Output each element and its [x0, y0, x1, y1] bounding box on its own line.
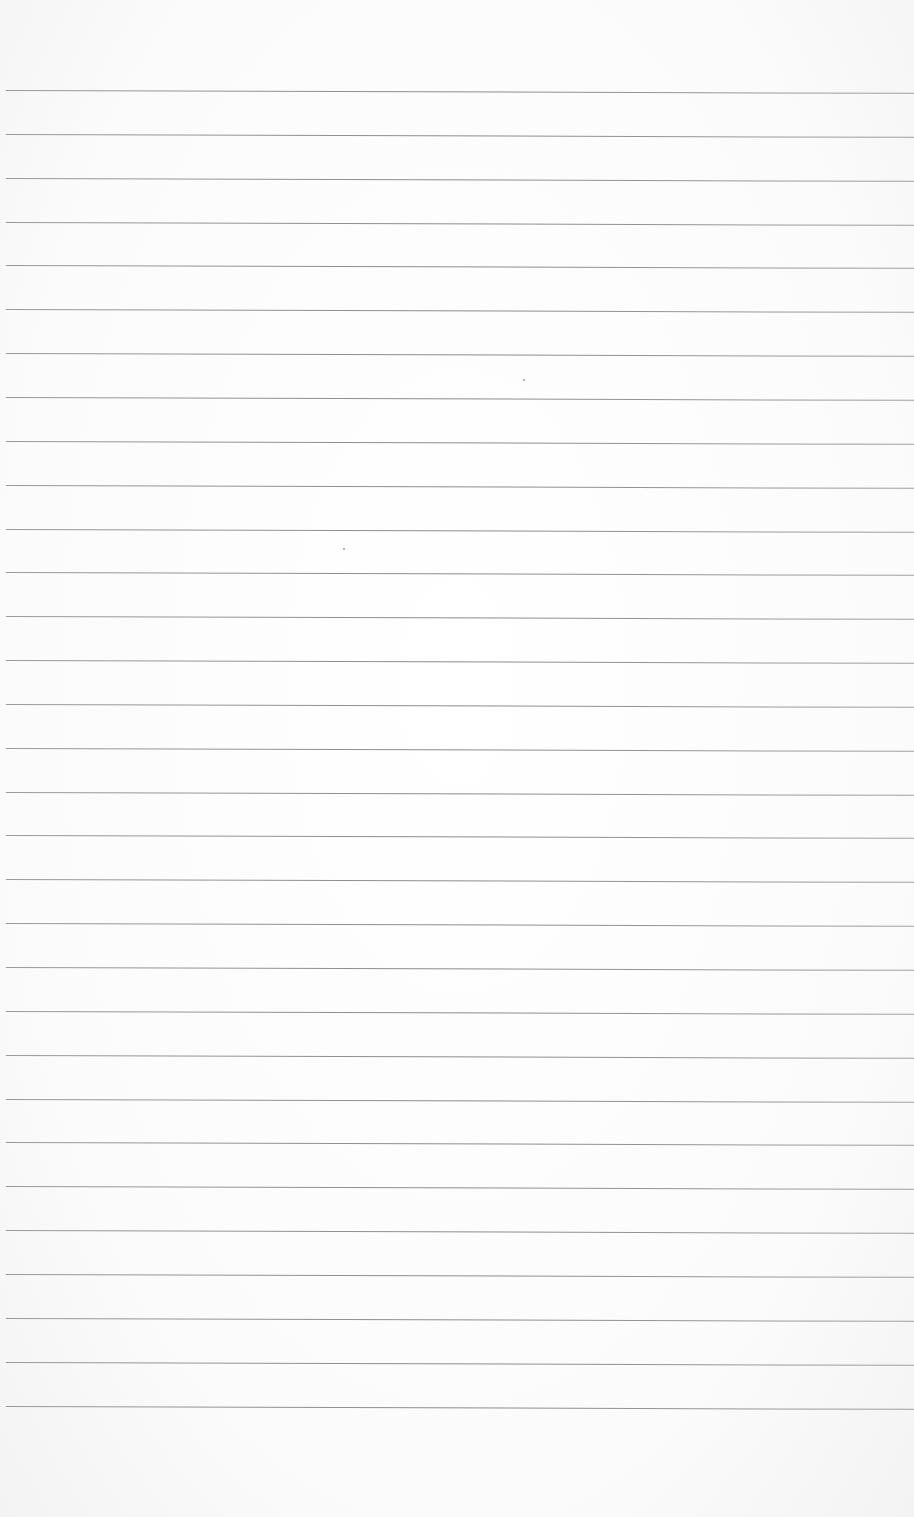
ruled-line: [6, 748, 914, 752]
ruled-line: [6, 1186, 914, 1190]
ruled-line: [6, 704, 914, 708]
ruled-line: [6, 441, 914, 445]
ruled-line: [6, 879, 914, 883]
paper-speck: [523, 379, 525, 381]
ruled-line: [6, 529, 914, 533]
ruled-line: [6, 134, 914, 138]
ruled-line: [6, 1230, 914, 1234]
ruled-line: [6, 967, 914, 971]
paper-speck: [343, 548, 345, 550]
ruled-line: [6, 792, 914, 796]
ruled-line: [6, 1274, 914, 1278]
ruled-line: [6, 660, 914, 664]
ruled-line: [6, 1011, 914, 1015]
ruled-line: [6, 90, 914, 94]
ruled-line: [6, 1406, 914, 1410]
ruled-line: [6, 309, 914, 313]
ruled-line: [6, 1099, 914, 1103]
ruled-line: [6, 1142, 914, 1146]
ruled-line: [6, 178, 914, 182]
ruled-line: [6, 265, 914, 269]
ruled-line: [6, 397, 914, 401]
lined-paper-sheet: [0, 0, 914, 1517]
ruled-line: [6, 1318, 914, 1322]
ruled-line: [6, 835, 914, 839]
ruled-line: [6, 485, 914, 489]
ruled-line: [6, 1055, 914, 1059]
ruled-line: [6, 572, 914, 576]
ruled-line: [6, 353, 914, 357]
ruled-line: [6, 923, 914, 927]
ruled-line: [6, 1362, 914, 1366]
ruled-line: [6, 222, 914, 226]
ruled-line: [6, 616, 914, 620]
